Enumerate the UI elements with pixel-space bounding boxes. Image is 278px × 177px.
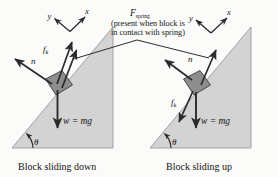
axis-y-label-left: y — [47, 11, 52, 21]
spring-note-line-1: (present when block is — [111, 19, 185, 28]
caption-right: Block sliding up — [166, 161, 232, 172]
weight-force-label-right: w = mg — [201, 116, 230, 126]
leader-line-right — [137, 40, 209, 58]
caption-left: Block sliding down — [18, 161, 96, 172]
friction-force-label-left: fk — [43, 44, 49, 55]
angle-label-left: θ — [34, 137, 39, 147]
physics-figure: θ n fk w = mg x y Block sliding down — [0, 0, 278, 177]
spring-force-label: Fspring — [129, 8, 150, 19]
axis-x-label-left: x — [84, 6, 89, 16]
axis-x-arrow-left — [70, 17, 85, 32]
friction-force-label-right: fk — [171, 97, 177, 108]
axis-x-label-right: x — [226, 7, 231, 17]
spring-note-line-2: in contact with spring) — [111, 28, 185, 37]
diagram-canvas: θ n fk w = mg x y Block sliding down — [0, 0, 278, 177]
axis-x-arrow-right — [211, 18, 227, 33]
axis-y-label-right: y — [188, 13, 193, 23]
panel-left: θ n fk w = mg x y Block sliding down — [12, 6, 113, 172]
angle-label-right: θ — [172, 137, 177, 147]
normal-force-label-right: n — [188, 54, 193, 64]
axis-y-arrow-right — [196, 20, 211, 33]
weight-force-label-left: w = mg — [63, 116, 92, 126]
normal-force-label-left: n — [31, 56, 36, 66]
axis-y-arrow-left — [55, 19, 71, 32]
